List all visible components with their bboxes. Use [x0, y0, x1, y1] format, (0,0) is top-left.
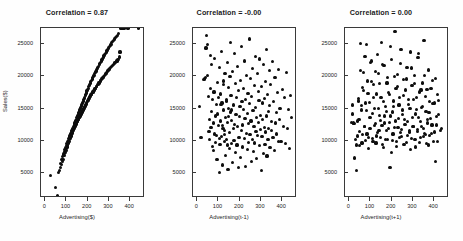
data-point: [385, 110, 388, 113]
data-point: [427, 143, 430, 146]
y-tick-mark: [192, 75, 196, 76]
data-point: [415, 96, 418, 99]
data-point: [251, 109, 254, 112]
data-point: [256, 72, 259, 75]
data-point: [248, 37, 251, 40]
data-point: [359, 42, 362, 45]
data-point: [414, 112, 417, 115]
data-point: [218, 171, 221, 174]
y-tick-mark: [344, 172, 348, 173]
data-point: [251, 138, 254, 141]
data-point: [427, 111, 430, 114]
data-point: [391, 110, 394, 113]
data-point: [228, 147, 231, 150]
data-point: [396, 85, 399, 88]
data-point: [366, 79, 369, 82]
data-point: [410, 66, 413, 69]
data-point: [430, 132, 433, 135]
data-point: [413, 138, 416, 141]
y-tick-label: 15000: [17, 105, 33, 111]
data-point: [384, 105, 387, 108]
y-axis: 500010000150002000025000: [0, 27, 40, 197]
x-tick-mark: [44, 197, 45, 201]
data-point: [367, 136, 370, 139]
data-point: [232, 127, 235, 130]
data-point: [250, 95, 253, 98]
data-point: [269, 83, 272, 86]
data-point: [380, 41, 383, 44]
data-point: [254, 106, 257, 109]
data-point: [422, 39, 425, 42]
y-tick-label: 20000: [169, 72, 185, 78]
data-point: [245, 132, 248, 135]
x-tick-label: 0: [195, 203, 198, 209]
scatter-panel-3: Correlation = 0.005000100001500020000250…: [304, 0, 458, 241]
x-tick-label: 300: [407, 203, 416, 209]
data-point: [216, 81, 219, 84]
data-point: [220, 50, 223, 53]
data-point: [219, 119, 222, 122]
data-point: [432, 140, 435, 143]
x-tick-mark: [281, 197, 282, 201]
data-point: [264, 80, 267, 83]
data-point: [207, 130, 210, 133]
data-point: [365, 109, 368, 112]
data-point: [372, 83, 375, 86]
data-point: [436, 140, 439, 143]
data-point: [388, 166, 391, 169]
data-point: [216, 112, 219, 115]
data-point: [206, 43, 209, 46]
x-tick-label: 400: [124, 203, 133, 209]
x-axis-label: Advertising(t+1): [304, 214, 458, 220]
data-point: [263, 143, 266, 146]
data-point: [58, 169, 61, 172]
data-point: [389, 114, 392, 117]
data-point: [279, 140, 282, 143]
data-point: [278, 107, 281, 110]
y-tick-mark: [40, 172, 44, 173]
data-point: [257, 121, 260, 124]
data-point: [234, 82, 237, 85]
data-point: [412, 125, 415, 128]
scatter-panel-2: Correlation = -0.00500010000150002000025…: [152, 0, 306, 241]
y-tick-label: 10000: [17, 137, 33, 143]
data-point: [210, 110, 213, 113]
data-point: [265, 48, 268, 51]
x-tick-label: 300: [103, 203, 112, 209]
data-point: [418, 141, 421, 144]
data-point: [260, 169, 263, 172]
data-point: [363, 55, 366, 58]
data-point: [379, 119, 382, 122]
data-point: [357, 97, 360, 100]
data-point: [273, 76, 276, 79]
data-point: [392, 99, 395, 102]
data-point: [378, 114, 381, 117]
data-point: [281, 88, 284, 91]
data-point: [228, 75, 231, 78]
y-tick-label: 25000: [17, 40, 33, 46]
data-point: [374, 122, 377, 125]
data-point: [385, 129, 388, 132]
data-point: [394, 119, 397, 122]
data-point: [237, 166, 240, 169]
x-tick-label: 100: [213, 203, 222, 209]
data-point: [213, 57, 216, 60]
data-point: [402, 94, 405, 97]
data-point: [371, 112, 374, 115]
y-tick-mark: [344, 43, 348, 44]
x-tick-mark: [260, 197, 261, 201]
y-tick-label: 25000: [169, 40, 185, 46]
x-axis: 0100200300400: [192, 197, 296, 213]
x-tick-label: 400: [428, 203, 437, 209]
data-point: [376, 53, 379, 56]
data-point: [282, 125, 285, 128]
data-point: [204, 46, 207, 49]
y-tick-mark: [192, 172, 196, 173]
plot-area: [344, 27, 448, 197]
x-tick-label: 200: [82, 203, 91, 209]
data-point: [268, 104, 271, 107]
data-point: [351, 103, 354, 106]
data-point: [227, 86, 230, 89]
data-point: [287, 108, 290, 111]
data-point: [218, 143, 221, 146]
